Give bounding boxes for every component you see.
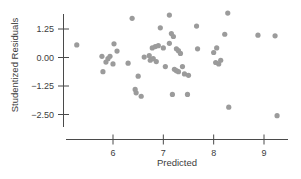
data-point: [185, 92, 190, 97]
data-point: [211, 50, 216, 55]
residual-plot: 1.250.00−1.25−2.50 Studentized Residuals…: [0, 0, 301, 179]
data-point: [161, 45, 166, 50]
data-point: [156, 43, 161, 48]
data-point: [130, 16, 135, 21]
data-point: [170, 92, 175, 97]
data-point: [226, 105, 231, 110]
data-point: [186, 73, 191, 78]
y-tick-label: −1.25: [31, 81, 54, 91]
data-point: [225, 10, 230, 15]
y-axis-title: Studentized Residuals: [9, 17, 20, 112]
data-point: [134, 90, 139, 95]
scatter-plot-canvas: 1.250.00−1.25−2.50 Studentized Residuals…: [0, 0, 301, 179]
data-point: [176, 69, 181, 74]
data-point: [114, 49, 119, 54]
data-point: [194, 23, 199, 28]
x-tick-label: 8: [211, 148, 216, 158]
x-tick-label: 9: [261, 148, 266, 158]
data-point: [167, 12, 172, 17]
data-point: [272, 33, 277, 38]
data-point: [139, 94, 144, 99]
data-point: [74, 42, 79, 47]
data-point: [214, 45, 219, 50]
data-point: [178, 51, 183, 56]
data-point: [167, 41, 172, 46]
x-axis-title: Predicted: [157, 157, 197, 168]
data-point: [158, 25, 163, 30]
data-point: [111, 41, 116, 46]
data-point: [154, 59, 159, 64]
data-point: [163, 64, 168, 69]
data-point: [195, 46, 200, 51]
y-tick-label: −2.50: [31, 110, 54, 120]
data-point: [180, 64, 185, 69]
data-point: [99, 54, 104, 59]
data-point: [136, 74, 141, 79]
data-point: [255, 33, 260, 38]
x-tick-label: 6: [110, 148, 115, 158]
data-point: [218, 58, 223, 63]
data-point: [274, 113, 279, 118]
y-tick-label: 0.00: [36, 53, 54, 63]
data-point: [107, 54, 112, 59]
data-point: [142, 54, 147, 59]
data-point: [110, 61, 115, 66]
y-tick-label: 1.25: [36, 24, 54, 34]
data-point: [171, 34, 176, 39]
data-point: [222, 32, 227, 37]
data-point: [126, 61, 131, 66]
data-point: [100, 69, 105, 74]
